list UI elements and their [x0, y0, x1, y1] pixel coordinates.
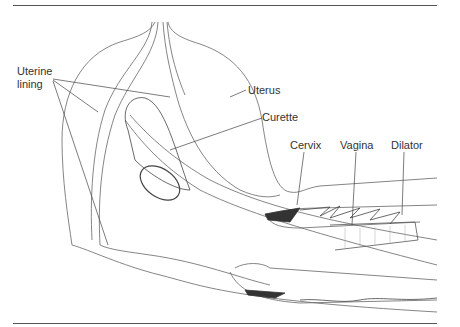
- uterus-outline: [62, 22, 155, 245]
- cervix-shading: [265, 208, 300, 222]
- label-dilator: Dilator: [391, 139, 423, 152]
- label-uterine-lining-line2: lining: [17, 78, 43, 91]
- label-curette: Curette: [262, 111, 298, 124]
- leader-uterine-lining: [53, 79, 170, 245]
- leader-uterus: [230, 90, 246, 97]
- anatomical-illustration: [0, 0, 460, 327]
- label-uterus: Uterus: [248, 84, 280, 97]
- lower-shading: [245, 290, 285, 298]
- label-uterine-lining-line1: Uterine: [17, 65, 52, 78]
- label-vagina: Vagina: [340, 139, 373, 152]
- label-cervix: Cervix: [290, 139, 321, 152]
- leader-curette: [170, 118, 262, 150]
- leader-cervix: [297, 152, 304, 205]
